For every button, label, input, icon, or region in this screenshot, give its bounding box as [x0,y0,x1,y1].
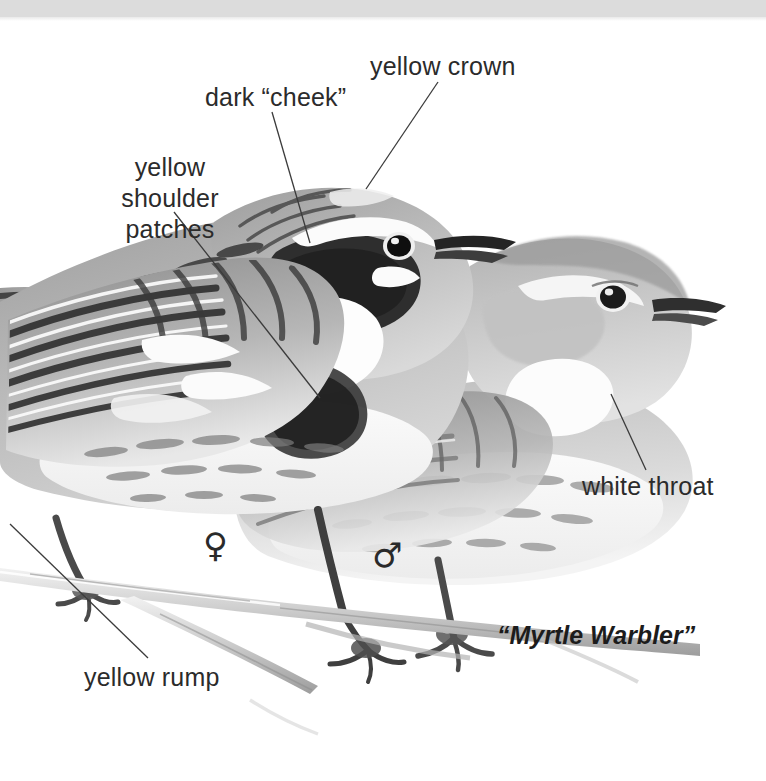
perch-branch [0,568,700,734]
male-symbol: ♂ [372,538,402,572]
female-symbol: ♀ [203,528,228,562]
label-yellow-crown: yellow crown [370,52,516,81]
plate-caption: “Myrtle Warbler” [497,621,695,650]
label-yellow-rump: yellow rump [84,663,220,692]
label-dark-cheek: dark “cheek” [205,83,346,112]
leader-yellow-crown [366,82,438,189]
label-yellow-shoulder-patches: yellow shoulder patches [84,152,256,245]
label-white-throat: white throat [582,472,714,501]
male-leg-rear [56,518,118,620]
illustration-plate: yellow crown dark “cheek” yellow shoulde… [0,0,766,781]
